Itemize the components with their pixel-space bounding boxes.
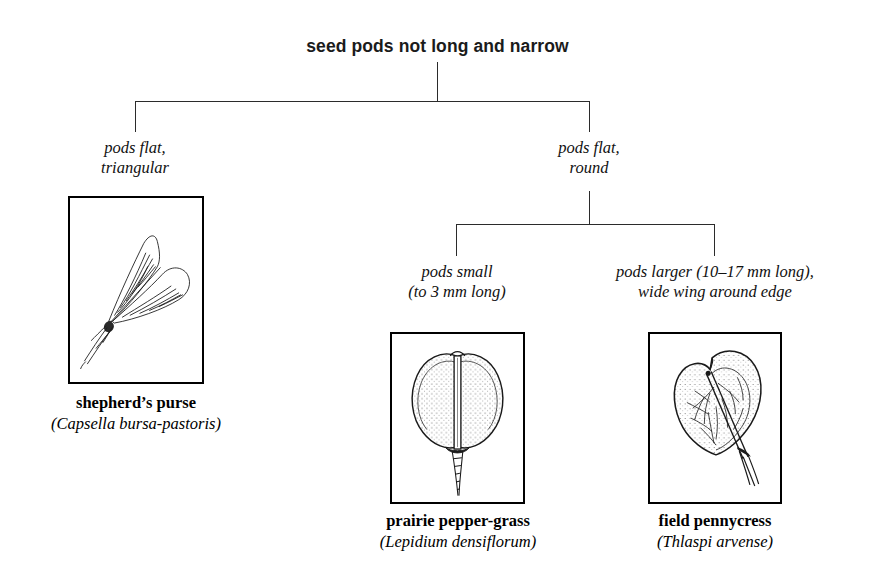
- root-label: seed pods not long and narrow: [0, 36, 875, 57]
- branch-label-pods-flat-triangular: pods flat, triangular: [55, 138, 215, 178]
- branch-label-pods-flat-round: pods flat, round: [509, 138, 669, 178]
- connector-root-stem: [437, 62, 438, 101]
- scientific-name-field-pennycress: (Thlaspi arvense): [619, 531, 811, 552]
- common-name-shepherds-purse: shepherd’s purse: [26, 392, 246, 413]
- dichotomous-key-diagram: seed pods not long and narrow pods flat,…: [0, 0, 875, 582]
- illustration-box-shepherds-purse: [68, 196, 204, 384]
- connector-level2-stem: [589, 191, 590, 224]
- connector-level1-left-drop: [135, 101, 136, 132]
- connector-level1-bar: [135, 101, 589, 102]
- branch-label-pods-larger: pods larger (10–17 mm long), wide wing a…: [582, 262, 848, 302]
- common-name-prairie-pepper-grass: prairie pepper-grass: [347, 510, 569, 531]
- connector-level2-right-drop: [714, 224, 715, 256]
- caption-shepherds-purse: shepherd’s purse (Capsella bursa-pastori…: [26, 392, 246, 434]
- connector-level1-right-drop: [589, 101, 590, 132]
- scientific-name-prairie-pepper-grass: (Lepidium densiflorum): [347, 531, 569, 552]
- round-notched-seed-pod-illustration: [392, 334, 523, 502]
- illustration-box-field-pennycress: [648, 332, 782, 504]
- caption-prairie-pepper-grass: prairie pepper-grass (Lepidium densiflor…: [347, 510, 569, 552]
- winged-round-seed-pod-illustration: [650, 334, 780, 502]
- branch-label-pods-small: pods small (to 3 mm long): [381, 262, 533, 302]
- triangular-seed-pod-illustration: [70, 198, 202, 382]
- connector-level2-bar: [456, 224, 715, 225]
- common-name-field-pennycress: field pennycress: [619, 510, 811, 531]
- illustration-box-prairie-pepper-grass: [390, 332, 525, 504]
- connector-level2-left-drop: [456, 224, 457, 256]
- scientific-name-shepherds-purse: (Capsella bursa-pastoris): [26, 413, 246, 434]
- caption-field-pennycress: field pennycress (Thlaspi arvense): [619, 510, 811, 552]
